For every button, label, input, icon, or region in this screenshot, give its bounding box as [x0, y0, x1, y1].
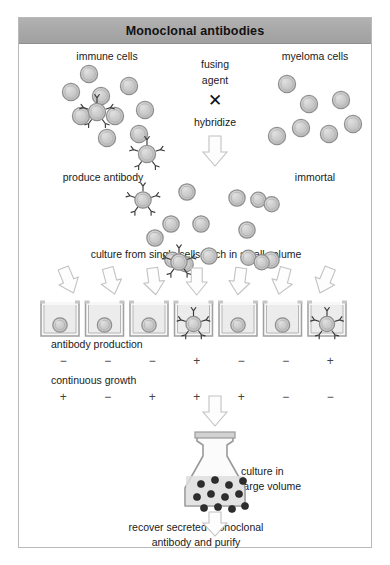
- continuous-growth-sign: +: [238, 390, 245, 404]
- arrow-hybridize: [203, 136, 227, 166]
- well-plate: [40, 301, 347, 339]
- arrow-to-recover: [203, 512, 227, 536]
- antibody-production-sign: −: [104, 354, 111, 368]
- continuous-growth-sign: +: [193, 390, 200, 404]
- antibody-production-sign: −: [149, 354, 156, 368]
- antibody-production-sign: +: [193, 354, 200, 368]
- antibody-production-sign: +: [327, 354, 334, 368]
- continuous-growth-sign: −: [104, 390, 111, 404]
- continuous-growth-sign: −: [282, 390, 289, 404]
- continuous-growth-sign: +: [60, 390, 67, 404]
- figure-title: Monoclonal antibodies: [19, 18, 371, 44]
- antibody-production-sign: −: [238, 354, 245, 368]
- continuous-growth-sign: +: [149, 390, 156, 404]
- figure-panel: Monoclonal antibodies immune cells myelo…: [18, 17, 372, 548]
- immune-cell-cluster: [62, 65, 164, 169]
- hybridoma-cell-cluster: [126, 183, 279, 277]
- antibody-production-sign: −: [60, 354, 67, 368]
- arrow-to-flask: [203, 396, 227, 426]
- antibody-production-sign: −: [282, 354, 289, 368]
- diagram-stage: immune cells myeloma cells fusing agent …: [19, 44, 373, 548]
- fanning-arrows-to-wells: [54, 264, 340, 297]
- myeloma-cell-cluster: [268, 75, 361, 144]
- continuous-growth-sign: −: [327, 390, 334, 404]
- culture-flask: [185, 432, 249, 513]
- diagram-artwork: [19, 44, 373, 548]
